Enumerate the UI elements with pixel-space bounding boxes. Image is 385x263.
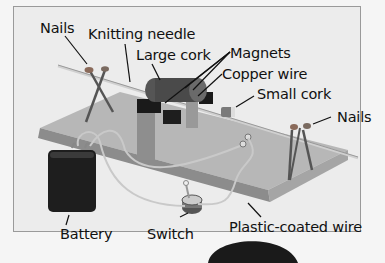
- label-nails-left: Nails: [40, 21, 74, 36]
- label-knitting-needle: Knitting needle: [88, 27, 195, 42]
- battery-icon: [48, 143, 96, 212]
- label-magnets: Magnets: [230, 46, 291, 61]
- label-small-cork: Small cork: [257, 87, 331, 102]
- large-cork-icon: [145, 78, 207, 102]
- label-copper-wire: Copper wire: [222, 67, 307, 82]
- label-switch: Switch: [147, 227, 194, 242]
- switch-icon: [182, 181, 202, 215]
- label-nails-right: Nails: [337, 110, 371, 125]
- head-silhouette: [208, 241, 298, 263]
- label-battery: Battery: [60, 227, 112, 242]
- label-large-cork: Large cork: [136, 48, 211, 63]
- small-cork-icon: [221, 107, 235, 117]
- label-plastic-coated-wire: Plastic-coated wire: [229, 220, 362, 235]
